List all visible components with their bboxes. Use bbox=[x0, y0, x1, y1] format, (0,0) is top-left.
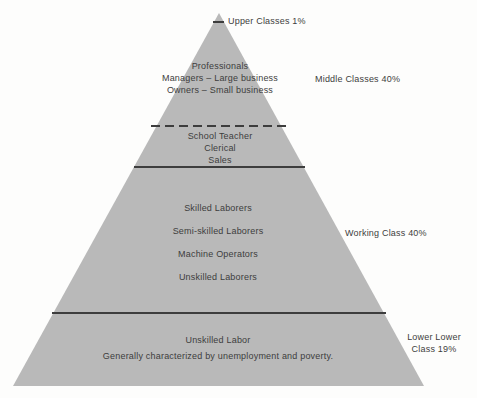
occupation-skilled-laborers: Skilled Laborers bbox=[118, 202, 318, 214]
occupation-unskilled-laborers: Unskilled Laborers bbox=[118, 271, 318, 283]
middle-working-divider-line bbox=[134, 166, 305, 168]
occupation-professionals: Professionals bbox=[120, 60, 320, 72]
lower-lower-class-label: Lower Lower Class 19% bbox=[396, 331, 472, 355]
occupation-managers-large-business: Managers – Large business bbox=[120, 72, 320, 84]
occupation-sales: Sales bbox=[120, 154, 320, 166]
middle-classes-label: Middle Classes 40% bbox=[315, 73, 400, 85]
occupation-owners-small-business: Owners – Small business bbox=[120, 84, 320, 96]
occupation-clerical: Clerical bbox=[120, 142, 320, 154]
upper-classes-label: Upper Classes 1% bbox=[228, 15, 306, 27]
occupation-school-teacher: School Teacher bbox=[120, 130, 320, 142]
lower-class-description: Generally characterized by unemployment … bbox=[38, 350, 398, 362]
middle-class-dashed-divider-line bbox=[151, 125, 290, 127]
occupation-machine-operators: Machine Operators bbox=[118, 248, 318, 260]
upper-class-divider-line bbox=[213, 21, 224, 23]
working-class-label: Working Class 40% bbox=[345, 227, 427, 239]
working-lower-divider-line bbox=[52, 312, 386, 314]
class-pyramid-diagram: Upper Classes 1% Professionals Managers … bbox=[0, 0, 477, 398]
lower-lower-class-label-line2: Class 19% bbox=[396, 343, 472, 355]
middle-class-lower-occupations: School Teacher Clerical Sales bbox=[120, 130, 320, 166]
lower-lower-class-label-line1: Lower Lower bbox=[396, 331, 472, 343]
occupation-unskilled-labor: Unskilled Labor bbox=[68, 334, 368, 346]
occupation-semi-skilled-laborers: Semi-skilled Laborers bbox=[118, 225, 318, 237]
middle-class-upper-occupations: Professionals Managers – Large business … bbox=[120, 60, 320, 96]
